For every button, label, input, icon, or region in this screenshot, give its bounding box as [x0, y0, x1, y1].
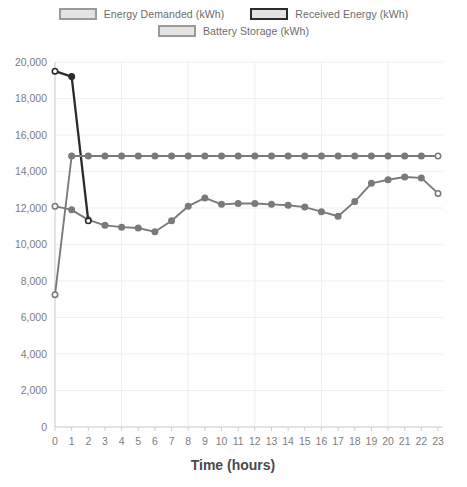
gridlines-group [55, 62, 443, 427]
series-point[interactable] [235, 201, 240, 206]
x-axis-title: Time (hours) [191, 457, 276, 473]
series-line [55, 71, 88, 221]
series-point[interactable] [136, 225, 141, 230]
series-point[interactable] [186, 203, 191, 208]
y-tick-label: 14,000 [15, 165, 47, 177]
series-point[interactable] [219, 202, 224, 207]
y-tick-label: 2,000 [21, 384, 47, 396]
series-point[interactable] [152, 229, 157, 234]
x-tick-label: 17 [332, 435, 344, 447]
x-tick-label: 4 [119, 435, 125, 447]
series-point[interactable] [69, 207, 74, 212]
series-point[interactable] [52, 292, 57, 297]
series-point[interactable] [86, 153, 91, 158]
y-tick-label: 0 [41, 421, 47, 433]
y-tick-label: 4,000 [21, 348, 47, 360]
series-point[interactable] [285, 153, 290, 158]
y-tick-label: 12,000 [15, 202, 47, 214]
series-point[interactable] [69, 153, 74, 158]
x-tick-label: 2 [85, 435, 91, 447]
series-point[interactable] [119, 153, 124, 158]
series-point[interactable] [252, 201, 257, 206]
x-tick-label: 9 [202, 435, 208, 447]
series-point[interactable] [369, 181, 374, 186]
x-tick-label: 20 [382, 435, 394, 447]
series-point[interactable] [169, 153, 174, 158]
x-tick-label: 19 [366, 435, 378, 447]
x-tick-label: 14 [282, 435, 294, 447]
series-point[interactable] [69, 74, 74, 79]
x-tick-label: 8 [185, 435, 191, 447]
series-point[interactable] [335, 214, 340, 219]
chart-container: Energy Demanded (kWh) Received Energy (k… [0, 0, 467, 487]
x-tick-label: 15 [299, 435, 311, 447]
series-point[interactable] [152, 153, 157, 158]
x-tick-label: 1 [69, 435, 75, 447]
series-point[interactable] [202, 195, 207, 200]
series-point[interactable] [52, 68, 57, 73]
series-point[interactable] [52, 203, 57, 208]
data-series-group [52, 68, 440, 297]
x-tick-label: 0 [52, 435, 58, 447]
series-point[interactable] [269, 202, 274, 207]
x-tick-labels-group: 01234567891011121314151617181920212223 [52, 427, 444, 447]
y-tick-label: 16,000 [15, 129, 47, 141]
x-tick-label: 10 [216, 435, 228, 447]
series-point[interactable] [385, 177, 390, 182]
series-point[interactable] [102, 153, 107, 158]
series-point[interactable] [402, 153, 407, 158]
series-point[interactable] [319, 209, 324, 214]
series-point[interactable] [235, 153, 240, 158]
series-point[interactable] [319, 153, 324, 158]
x-tick-label: 21 [399, 435, 411, 447]
series-point[interactable] [186, 153, 191, 158]
x-tick-label: 3 [102, 435, 108, 447]
x-tick-label: 6 [152, 435, 158, 447]
x-tick-label: 23 [432, 435, 444, 447]
y-tick-label: 18,000 [15, 92, 47, 104]
series-point[interactable] [102, 223, 107, 228]
series-point[interactable] [219, 153, 224, 158]
x-tick-label: 18 [349, 435, 361, 447]
series-point[interactable] [302, 153, 307, 158]
series-point[interactable] [252, 153, 257, 158]
x-tick-label: 11 [233, 435, 244, 447]
series-point[interactable] [202, 153, 207, 158]
series-point[interactable] [352, 153, 357, 158]
y-tick-labels-group: 20,00018,00016,00014,00012,00010,0008,00… [15, 56, 47, 433]
series-point[interactable] [435, 191, 440, 196]
x-tick-label: 22 [416, 435, 428, 447]
series-point[interactable] [419, 175, 424, 180]
series-point[interactable] [435, 153, 440, 158]
series-point[interactable] [169, 218, 174, 223]
series-point[interactable] [335, 153, 340, 158]
y-tick-label: 8,000 [21, 275, 47, 287]
series-point[interactable] [385, 153, 390, 158]
y-tick-label: 20,000 [15, 56, 47, 68]
series-point[interactable] [136, 153, 141, 158]
series-point[interactable] [86, 218, 91, 223]
x-tick-label: 5 [135, 435, 141, 447]
x-tick-label: 12 [249, 435, 261, 447]
series-line [55, 177, 438, 232]
x-tick-label: 7 [169, 435, 175, 447]
series-point[interactable] [285, 203, 290, 208]
series-point[interactable] [419, 153, 424, 158]
series-point[interactable] [269, 153, 274, 158]
series-point[interactable] [369, 153, 374, 158]
series-point[interactable] [352, 199, 357, 204]
y-tick-label: 6,000 [21, 311, 47, 323]
chart-plot-area: 20,00018,00016,00014,00012,00010,0008,00… [0, 0, 467, 487]
x-tick-label: 13 [266, 435, 278, 447]
series-point[interactable] [119, 224, 124, 229]
y-tick-label: 10,000 [15, 238, 47, 250]
x-tick-label: 16 [316, 435, 328, 447]
series-point[interactable] [402, 174, 407, 179]
series-point[interactable] [302, 204, 307, 209]
